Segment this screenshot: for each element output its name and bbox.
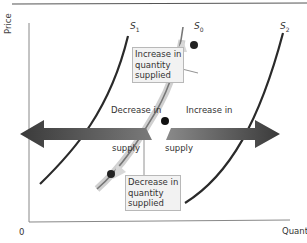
y-axis-label: Price <box>3 13 13 34</box>
s2-subscript: 2 <box>286 26 290 33</box>
decrease-supply-label-line2: supply <box>112 143 140 153</box>
increase-supply-label-line2: supply <box>165 143 193 153</box>
callout-upper-line2: quantity <box>135 60 181 71</box>
increase-quantity-supplied-callout: Increase in quantity supplied <box>132 47 184 83</box>
x-axis <box>29 220 290 222</box>
decrease-quantity-supplied-callout: Decrease in quantity supplied <box>125 175 181 211</box>
x-axis-label: Quantity <box>282 226 307 236</box>
lower-point <box>107 170 115 178</box>
callout-lower-line3: supplied <box>128 198 178 209</box>
callout-upper-line3: supplied <box>135 70 181 81</box>
callout-lower-line1: Decrease in <box>128 177 178 188</box>
callout-upper-line1: Increase in <box>135 49 181 60</box>
s0-subscript: 0 <box>200 26 204 33</box>
callout-lower-line2: quantity <box>128 188 178 199</box>
s1-label: S1 <box>130 21 140 33</box>
top-rule <box>12 3 307 4</box>
s1-subscript: 1 <box>136 26 140 33</box>
increase-supply-label-line1: Increase in <box>186 105 232 115</box>
supply-curve-s2 <box>185 33 283 203</box>
decrease-supply-label-line1: Decrease in <box>111 105 161 115</box>
origin-label: 0 <box>19 227 24 237</box>
upper-point <box>190 41 198 49</box>
s2-label: S2 <box>280 21 290 33</box>
equilibrium-point <box>161 117 169 125</box>
s0-label: S0 <box>194 21 204 33</box>
